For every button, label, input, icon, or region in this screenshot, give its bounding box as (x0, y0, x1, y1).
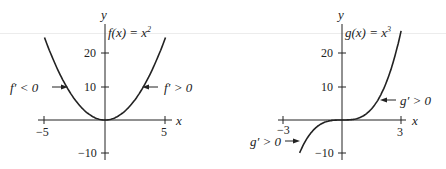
right-x-axis-label: x (412, 114, 418, 127)
cubic-curve (300, 31, 402, 153)
left-annotation-increasing: f′ > 0 (164, 81, 192, 94)
left-tick-5: 5 (161, 126, 167, 138)
left-tick-10: 10 (84, 81, 96, 93)
left-y-axis-label: y (101, 8, 107, 21)
left-annotation-decreasing: f′ < 0 (10, 81, 38, 94)
left-tick-20: 20 (84, 47, 96, 59)
left-function-label: f(x) = x2 (108, 26, 151, 39)
right-function-label: g(x) = x3 (345, 26, 391, 39)
right-tick-neg10: −10 (315, 147, 334, 159)
right-tick-3: 3 (397, 126, 403, 138)
right-annotation-increasing-left: g′ > 0 (250, 135, 281, 148)
left-tick-neg5: −5 (36, 126, 49, 138)
right-tick-10: 10 (321, 81, 333, 93)
right-tick-20: 20 (321, 47, 333, 59)
left-tick-neg10: −10 (78, 147, 97, 159)
right-annotation-increasing: g′ > 0 (400, 94, 431, 107)
right-y-axis-label: y (338, 8, 344, 21)
left-x-axis-label: x (176, 114, 182, 127)
